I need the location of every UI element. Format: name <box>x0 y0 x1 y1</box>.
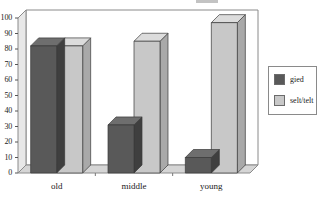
y-axis-tick-label: 60 <box>0 76 12 84</box>
y-axis-tick-label: 80 <box>0 45 12 53</box>
plot-left-wall <box>18 10 26 173</box>
legend-swatch-selt-telt <box>274 95 285 106</box>
legend-label-selt-telt: selt/telt <box>290 97 314 105</box>
bar-middle-gied <box>108 117 142 173</box>
y-axis-tick-label: 100 <box>0 14 12 22</box>
y-axis-tick-label: 20 <box>0 138 12 146</box>
bar-old-gied <box>31 38 65 173</box>
y-axis-tick-label: 90 <box>0 30 12 38</box>
bar-young-gied <box>185 150 219 174</box>
legend-label-gied: gied <box>290 76 304 84</box>
y-axis-tick-label: 50 <box>0 92 12 100</box>
x-axis-tick-label: young <box>181 182 241 191</box>
legend-swatch-gied <box>274 74 285 85</box>
x-axis-tick-label: middle <box>104 182 164 191</box>
legend-item-gied: gied <box>274 74 304 85</box>
bars-layer <box>31 15 246 173</box>
y-axis-tick-label: 70 <box>0 61 12 69</box>
y-axis-tick-label: 0 <box>0 169 12 177</box>
x-axis-tick-label: old <box>27 182 87 191</box>
bar-chart: 0102030405060708090100 oldmiddleyoung gi… <box>0 0 321 201</box>
legend-item-selt-telt: selt/telt <box>274 95 314 106</box>
legend: gied selt/telt <box>268 66 317 115</box>
y-axis-tick-label: 10 <box>0 154 12 162</box>
y-axis-tick-label: 30 <box>0 123 12 131</box>
y-axis-tick-label: 40 <box>0 107 12 115</box>
